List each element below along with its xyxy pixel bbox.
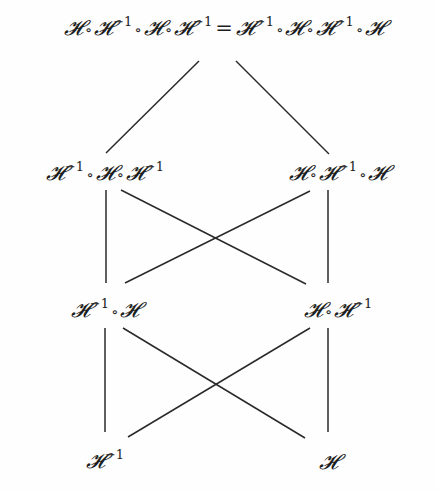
node-row3-right: 𝓗∘𝓗−1 [304,297,373,321]
compose-op: ∘ [306,21,313,39]
node-bottom-right: 𝓗 [319,452,338,473]
h-symbol: 𝓗 [365,16,384,40]
compose-op: ∘ [165,21,172,39]
inverse-exponent: −1 [193,14,212,29]
h-symbol: 𝓗 [319,450,338,474]
compose-op: ∘ [310,166,317,184]
edge-top-to-row2-right [236,61,329,154]
h-symbol: 𝓗 [334,298,353,322]
edge-top-to-row2-left [106,61,199,153]
inverse-exponent: −1 [335,14,354,29]
compose-op: ∘ [356,21,363,39]
lattice-diagram: 𝓗∘𝓗−1∘𝓗∘𝓗−1=𝓗−1∘𝓗∘𝓗−1∘𝓗 𝓗−1∘𝓗∘𝓗−1 𝓗∘𝓗−1∘… [0,0,437,491]
node-row2-left: 𝓗−1∘𝓗∘𝓗−1 [46,160,164,184]
inverse-exponent: −1 [65,159,84,174]
h-symbol: 𝓗 [316,16,335,40]
compose-op: ∘ [359,166,366,184]
h-symbol: 𝓗 [64,16,83,40]
h-symbol: 𝓗 [86,449,105,473]
edge-row2-left-to-row3-right [121,190,306,284]
node-bottom-left: 𝓗−1 [86,448,124,472]
h-symbol: 𝓗 [71,298,90,322]
compose-op: ∘ [86,166,93,184]
compose-op: ∘ [111,303,118,321]
h-symbol: 𝓗 [126,161,145,185]
h-symbol: 𝓗 [368,161,387,185]
equals-sign: = [215,16,233,40]
edge-row3-right-to-bottom-left [128,328,310,437]
h-symbol: 𝓗 [236,16,255,40]
h-symbol: 𝓗 [304,298,323,322]
edge-row3-left-to-bottom-right [123,328,305,438]
compose-op: ∘ [85,21,92,39]
inverse-exponent: −1 [90,296,109,311]
h-symbol: 𝓗 [174,16,193,40]
h-symbol: 𝓗 [285,16,304,40]
inverse-exponent: −1 [255,14,274,29]
inverse-exponent: −1 [338,159,357,174]
inverse-exponent: −1 [113,14,132,29]
h-symbol: 𝓗 [46,161,65,185]
h-symbol: 𝓗 [319,161,338,185]
inverse-exponent: −1 [353,296,372,311]
h-symbol: 𝓗 [96,161,115,185]
node-row3-left: 𝓗−1∘𝓗 [71,297,140,321]
inverse-exponent: −1 [145,159,164,174]
inverse-exponent: −1 [105,447,124,462]
node-row2-right: 𝓗∘𝓗−1∘𝓗 [289,160,388,184]
edge-layer [0,0,437,491]
h-symbol: 𝓗 [289,161,308,185]
edge-row2-right-to-row3-left [125,191,310,283]
h-symbol: 𝓗 [120,298,139,322]
compose-op: ∘ [117,166,124,184]
compose-op: ∘ [134,21,141,39]
h-symbol: 𝓗 [144,16,163,40]
compose-op: ∘ [276,21,283,39]
h-symbol: 𝓗 [94,16,113,40]
compose-op: ∘ [325,303,332,321]
node-top: 𝓗∘𝓗−1∘𝓗∘𝓗−1=𝓗−1∘𝓗∘𝓗−1∘𝓗 [64,15,384,39]
